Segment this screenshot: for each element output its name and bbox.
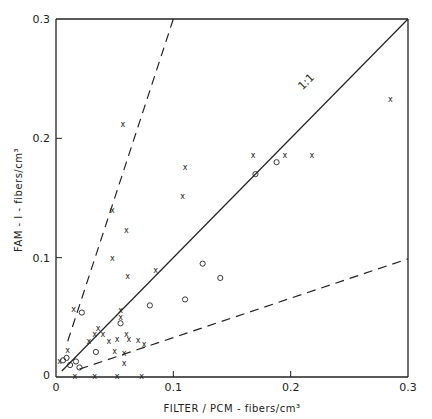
- o-marker: [73, 359, 78, 364]
- one-to-one-line: [62, 19, 408, 371]
- x-marker: x: [65, 346, 70, 355]
- x-marker: x: [124, 226, 129, 235]
- o-marker: [200, 261, 205, 266]
- x-axis-title: FILTER / PCM - fibers/cm³: [164, 403, 301, 414]
- x-marker: x: [122, 349, 127, 358]
- y-tick-label: 0.2: [33, 132, 51, 145]
- y-tick-label: 0.3: [33, 13, 51, 26]
- x-marker: x: [180, 192, 185, 201]
- x-marker: x: [139, 372, 144, 381]
- x-marker: x: [92, 372, 97, 381]
- o-marker: [79, 310, 84, 315]
- x-marker: x: [183, 163, 188, 172]
- plot-area: 000.10.10.20.20.30.31:1xxxxxxxxxxxxxxxxx…: [33, 13, 417, 394]
- x-marker: x: [309, 151, 314, 160]
- x-marker: x: [112, 347, 117, 356]
- y-axis-title: FAM - I - fibers/cm³: [13, 148, 24, 252]
- x-marker: x: [126, 335, 131, 344]
- x-marker: x: [71, 305, 76, 314]
- o-marker: [182, 297, 187, 302]
- x-marker: x: [125, 272, 130, 281]
- x-marker: x: [136, 336, 141, 345]
- x-marker: x: [121, 120, 126, 129]
- scatter-chart: 000.10.10.20.20.30.31:1xxxxxxxxxxxxxxxxx…: [0, 0, 432, 419]
- x-tick-label: 0: [53, 381, 60, 394]
- y-tick-label: 0.1: [33, 252, 51, 265]
- o-marker: [274, 160, 279, 165]
- o-marker: [147, 303, 152, 308]
- o-marker: [93, 349, 98, 354]
- x-tick-label: 0.1: [165, 381, 183, 394]
- o-marker: [77, 365, 82, 370]
- x-marker: x: [101, 330, 106, 339]
- x-marker: x: [153, 266, 158, 275]
- x-marker: x: [118, 306, 123, 315]
- x-marker: x: [72, 372, 77, 381]
- x-marker: x: [282, 151, 287, 160]
- x-marker: x: [142, 340, 147, 349]
- x-marker: x: [251, 151, 256, 160]
- x-marker: x: [110, 206, 115, 215]
- x-marker: x: [106, 337, 111, 346]
- x-marker: x: [115, 372, 120, 381]
- x-marker: x: [110, 254, 115, 263]
- x-marker: x: [388, 95, 393, 104]
- dashed-reference-line: [68, 19, 174, 341]
- x-marker: x: [115, 335, 120, 344]
- x-tick-label: 0.2: [282, 381, 300, 394]
- line-annotation: 1:1: [295, 71, 317, 93]
- y-tick-label: 0: [43, 369, 50, 382]
- o-marker: [218, 275, 223, 280]
- x-marker: x: [122, 359, 127, 368]
- x-marker: x: [86, 337, 91, 346]
- x-tick-label: 0.3: [399, 381, 417, 394]
